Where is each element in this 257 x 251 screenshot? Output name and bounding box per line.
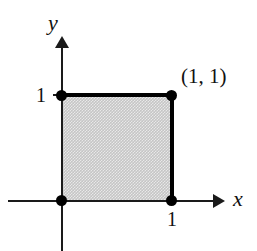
x-axis-tick-label-1: 1 — [167, 209, 177, 229]
corner-point-label: (1, 1) — [181, 66, 227, 87]
y-axis-line — [61, 42, 63, 251]
y-axis-arrowhead-icon — [55, 36, 69, 48]
unit-square-figure: y x 1 1 (1, 1) — [0, 0, 257, 251]
point-dot-y-one — [56, 90, 67, 101]
x-axis-label: x — [233, 188, 243, 210]
point-dot-origin — [56, 195, 67, 206]
shaded-unit-square-region — [62, 95, 172, 201]
x-axis-arrowhead-icon — [213, 194, 225, 208]
x-axis-line — [8, 200, 223, 202]
y-axis-label: y — [48, 12, 58, 34]
square-right-edge — [170, 95, 174, 202]
point-dot-x-one — [166, 195, 177, 206]
square-top-edge — [62, 93, 173, 97]
y-axis-tick-label-1: 1 — [36, 85, 46, 105]
point-dot-one-one — [166, 90, 177, 101]
